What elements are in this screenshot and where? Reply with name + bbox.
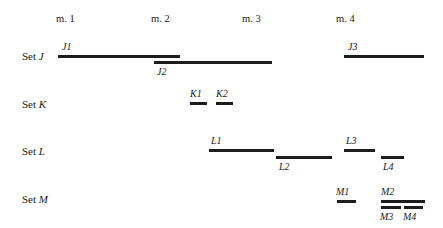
set-label-k: Set K	[22, 99, 46, 110]
measure-label-1: m. 1	[56, 14, 75, 25]
bar-label-l3: L3	[346, 136, 357, 146]
bar-label-l1: L1	[211, 136, 222, 146]
set-label-l: Set L	[22, 146, 45, 157]
bar-label-m2: M2	[381, 187, 394, 197]
measure-label-3: m. 3	[242, 14, 261, 25]
bar-k1	[190, 102, 207, 105]
set-label-j: Set J	[22, 51, 44, 62]
bar-j1	[58, 55, 180, 58]
bar-label-k2: K2	[216, 89, 228, 99]
set-letter-m: M	[39, 193, 48, 205]
bar-l2	[276, 156, 332, 159]
bar-j3	[344, 55, 424, 58]
bar-l3	[344, 149, 375, 152]
set-letter-l: L	[39, 145, 45, 157]
set-letter-j: J	[39, 50, 44, 62]
bar-k2	[216, 102, 233, 105]
bar-m2	[381, 200, 425, 203]
bar-label-j1: J1	[62, 42, 71, 52]
bar-label-m4: M4	[403, 212, 416, 222]
bar-m1	[337, 200, 356, 203]
bar-label-l2: L2	[279, 162, 290, 172]
bar-l4	[381, 156, 404, 159]
bar-label-k1: K1	[190, 89, 202, 99]
bar-l1	[209, 149, 274, 152]
bar-label-l4: L4	[383, 162, 394, 172]
timeline-figure: m. 1 m. 2 m. 3 m. 4 Set J Set K Set L Se…	[0, 0, 443, 228]
bar-label-j2: J2	[157, 67, 166, 77]
bar-m3	[381, 206, 401, 209]
bar-j2	[154, 61, 272, 64]
bar-label-j3: J3	[348, 42, 357, 52]
set-word-m: Set	[22, 193, 36, 205]
set-word-j: Set	[22, 50, 36, 62]
bar-label-m3: M3	[380, 212, 393, 222]
set-word-l: Set	[22, 145, 36, 157]
bar-label-m1: M1	[336, 187, 349, 197]
set-label-m: Set M	[22, 194, 48, 205]
set-word-k: Set	[22, 98, 36, 110]
measure-label-2: m. 2	[151, 14, 170, 25]
measure-label-4: m. 4	[336, 14, 355, 25]
bar-m4	[404, 206, 423, 209]
set-letter-k: K	[39, 98, 46, 110]
